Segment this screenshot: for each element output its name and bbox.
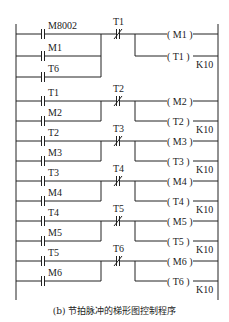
- coil-t4: ( T4 )K10: [135, 196, 218, 216]
- rungs: M8002M1T6T1( M1 )( T1 )K10T1M2T2( M2 )( …: [16, 16, 218, 295]
- figure-caption: (b) 节拍脉冲的梯形图控制程序: [0, 304, 229, 317]
- contact-label: M8002: [48, 20, 77, 31]
- contact-label: M4: [48, 187, 62, 198]
- coil-label: ( T6 ): [167, 276, 190, 288]
- no-contact-t6: T6: [16, 63, 101, 82]
- timer-preset: K10: [196, 164, 213, 175]
- coil-m4: ( M4 ): [135, 176, 218, 188]
- contact-label: T3: [48, 167, 59, 178]
- coil-label: ( T2 ): [167, 116, 190, 128]
- contact-label: T5: [48, 247, 59, 258]
- nc-contact-t4: T4: [101, 163, 135, 186]
- coil-m6: ( M6 ): [135, 256, 218, 268]
- contact-label: T4: [48, 207, 59, 218]
- contact-label: T2: [48, 127, 59, 138]
- contact-label: T1: [48, 87, 59, 98]
- timer-preset: K10: [196, 204, 213, 215]
- contact-label: T6: [48, 63, 59, 74]
- coil-label: ( T1 ): [167, 51, 190, 63]
- rung-6: T5M6T6( M6 )( T6 )K10: [16, 243, 218, 295]
- ladder-diagram: M8002M1T6T1( M1 )( T1 )K10T1M2T2( M2 )( …: [0, 0, 229, 322]
- no-contact-m2: M2: [16, 107, 101, 126]
- contact-label: T4: [113, 163, 124, 174]
- no-contact-m4: M4: [16, 187, 101, 206]
- no-contact-m6: M6: [16, 267, 101, 286]
- nc-contact-t3: T3: [101, 123, 135, 146]
- coil-t3: ( T3 )K10: [135, 156, 218, 176]
- coil-label: ( M4 ): [167, 176, 193, 188]
- coil-label: ( T4 ): [167, 196, 190, 208]
- no-contact-t3: T3: [16, 167, 101, 186]
- coil-t5: ( T5 )K10: [135, 236, 218, 256]
- coil-label: ( M3 ): [167, 136, 193, 148]
- no-contact-m1: M1: [16, 42, 101, 61]
- no-contact-m5: M5: [16, 227, 101, 246]
- coil-t6: ( T6 )K10: [135, 276, 218, 296]
- contact-label: M6: [48, 267, 62, 278]
- coil-t1: ( T1 )K10: [135, 51, 218, 71]
- contact-label: T5: [113, 203, 124, 214]
- contact-label: M1: [48, 42, 62, 53]
- timer-preset: K10: [196, 284, 213, 295]
- nc-contact-t1: T1: [101, 16, 135, 39]
- no-contact-t5: T5: [16, 247, 101, 266]
- no-contact-m3: M3: [16, 147, 101, 166]
- contact-label: T3: [113, 123, 124, 134]
- coil-label: ( M5 ): [167, 216, 193, 228]
- coil-m2: ( M2 ): [135, 96, 218, 108]
- coil-label: ( M2 ): [167, 96, 193, 108]
- contact-label: T6: [113, 243, 124, 254]
- coil-label: ( T5 ): [167, 236, 190, 248]
- timer-preset: K10: [196, 124, 213, 135]
- nc-contact-t6: T6: [101, 243, 135, 266]
- timer-preset: K10: [196, 244, 213, 255]
- no-contact-t4: T4: [16, 207, 101, 226]
- no-contact-m8002: M8002: [16, 20, 101, 39]
- coil-m5: ( M5 ): [135, 216, 218, 228]
- coil-m1: ( M1 ): [135, 29, 218, 41]
- contact-label: T2: [113, 83, 124, 94]
- contact-label: M3: [48, 147, 62, 158]
- nc-contact-t5: T5: [101, 203, 135, 226]
- nc-contact-t2: T2: [101, 83, 135, 106]
- coil-label: ( T3 ): [167, 156, 190, 168]
- no-contact-t1: T1: [16, 87, 101, 106]
- coil-m3: ( M3 ): [135, 136, 218, 148]
- coil-t2: ( T2 )K10: [135, 116, 218, 136]
- coil-label: ( M6 ): [167, 256, 193, 268]
- contact-label: M5: [48, 227, 62, 238]
- no-contact-t2: T2: [16, 127, 101, 146]
- coil-label: ( M1 ): [167, 29, 193, 41]
- contact-label: M2: [48, 107, 62, 118]
- contact-label: T1: [113, 16, 124, 27]
- rung-1: M8002M1T6T1( M1 )( T1 )K10: [16, 16, 218, 82]
- timer-preset: K10: [196, 59, 213, 70]
